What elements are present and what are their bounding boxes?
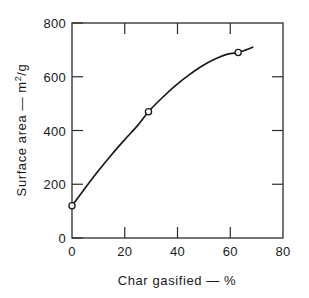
x-axis-ticks-bottom bbox=[125, 227, 231, 238]
x-tick-label-20: 20 bbox=[117, 244, 132, 259]
chart-canvas: 800 600 400 200 0 0 20 40 60 80 Char gas… bbox=[0, 0, 309, 298]
data-point-marker bbox=[235, 49, 241, 55]
data-point-marker bbox=[145, 109, 151, 115]
x-axis-title: Char gasified — % bbox=[118, 273, 237, 288]
axis-frame bbox=[72, 23, 283, 238]
x-tick-labels: 0 20 40 60 80 bbox=[68, 244, 290, 259]
y-axis-ticks-right bbox=[272, 77, 283, 185]
chart-figure: 800 600 400 200 0 0 20 40 60 80 Char gas… bbox=[0, 0, 309, 298]
y-tick-label-400: 400 bbox=[43, 124, 66, 139]
y-axis-title-group: Surface area — m2/g bbox=[13, 64, 29, 197]
y-axis-title-prefix: Surface area — m bbox=[14, 81, 29, 196]
y-axis-title-suffix: /g bbox=[14, 64, 29, 76]
x-axis-ticks-top bbox=[125, 23, 231, 34]
data-series-curve bbox=[72, 47, 253, 206]
x-tick-label-60: 60 bbox=[223, 244, 238, 259]
y-tick-label-800: 800 bbox=[43, 16, 66, 31]
data-point-marker bbox=[69, 203, 75, 209]
x-tick-label-80: 80 bbox=[275, 244, 290, 259]
y-tick-labels: 800 600 400 200 0 bbox=[43, 16, 66, 246]
y-axis-title: Surface area — m2/g bbox=[13, 64, 29, 197]
data-series-markers bbox=[69, 49, 241, 208]
x-tick-label-40: 40 bbox=[170, 244, 185, 259]
y-tick-label-200: 200 bbox=[43, 177, 66, 192]
y-tick-label-0: 0 bbox=[58, 231, 66, 246]
y-tick-label-600: 600 bbox=[43, 70, 66, 85]
x-tick-label-0: 0 bbox=[68, 244, 76, 259]
